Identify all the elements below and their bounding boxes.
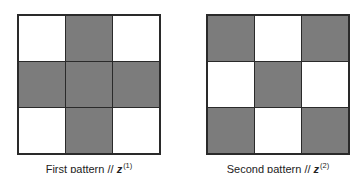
grid-cell-0-2 (112, 15, 160, 62)
grid-cell-1-0 (207, 61, 255, 108)
grid-cell-2-0 (207, 107, 255, 154)
grid-cell-1-2 (301, 61, 349, 108)
second-pattern-caption: Second pattern // z(2) (206, 161, 350, 173)
grid-cell-2-2 (301, 107, 349, 154)
second-pattern (206, 14, 350, 155)
grid-cell-0-1 (254, 15, 302, 62)
grid-cell-1-1 (254, 61, 302, 108)
grid-cell-2-1 (254, 107, 302, 154)
second-pattern-grid (206, 14, 350, 155)
caption-superscript: (1) (123, 161, 132, 170)
grid-cell-0-2 (301, 15, 349, 62)
first-pattern-grid (17, 14, 161, 155)
grid-cell-0-0 (207, 15, 255, 62)
grid-cell-1-0 (18, 61, 66, 108)
grid-cell-2-0 (18, 107, 66, 154)
caption-superscript: (2) (320, 161, 329, 170)
grid-cell-1-1 (65, 61, 113, 108)
grid-cell-1-2 (112, 61, 160, 108)
grid-cell-0-1 (65, 15, 113, 62)
grid-cell-2-1 (65, 107, 113, 154)
caption-text: Second pattern // (227, 163, 314, 173)
caption-text: First pattern // (46, 163, 117, 173)
grid-cell-0-0 (18, 15, 66, 62)
caption-variable: z (314, 163, 320, 173)
first-pattern-caption: First pattern // z(1) (17, 161, 161, 173)
caption-variable: z (117, 163, 123, 173)
first-pattern (17, 14, 161, 155)
grid-cell-2-2 (112, 107, 160, 154)
